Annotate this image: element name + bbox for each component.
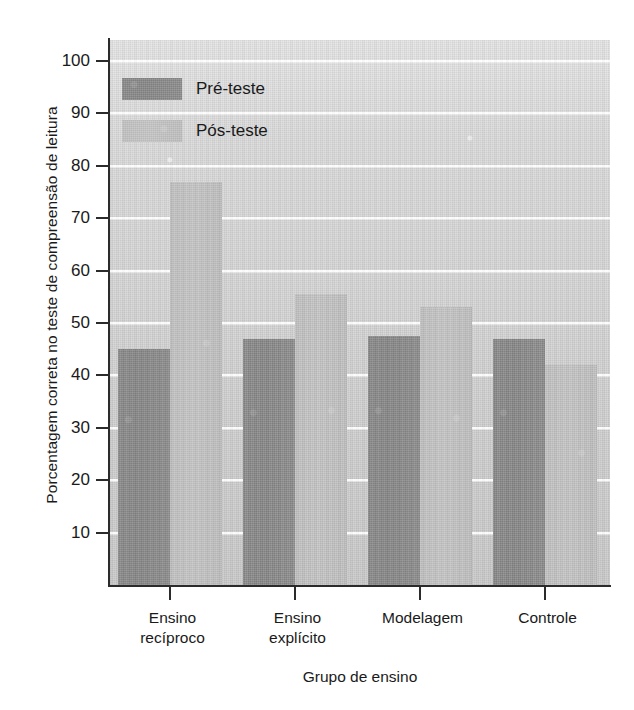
y-axis-tick	[96, 165, 108, 167]
x-axis-title: Grupo de ensino	[110, 668, 610, 686]
y-axis-title: Porcentagem correta no teste de compreen…	[43, 5, 61, 605]
bar-pos-teste	[170, 182, 222, 586]
x-axis-category-label: Modelagem	[353, 608, 493, 628]
y-axis-tick-label-wrap: 20	[40, 471, 90, 489]
bar-pre-teste	[493, 339, 545, 585]
x-axis-category-label-line: Ensino	[228, 608, 368, 628]
legend: Pré-teste Pós-teste	[122, 68, 382, 152]
y-axis-tick-label-wrap: 60	[40, 262, 90, 280]
y-axis-tick-label-wrap: 40	[40, 366, 90, 384]
bar-pos-teste	[295, 294, 347, 585]
x-axis-tick	[294, 587, 296, 600]
gridline	[110, 165, 610, 167]
plot-area: Pré-teste Pós-teste	[110, 40, 610, 585]
x-axis-category-label-line: Modelagem	[353, 608, 493, 628]
y-axis-line	[108, 38, 110, 587]
y-axis-tick-label-wrap: 100	[40, 52, 90, 70]
y-axis-tick-label: 60	[44, 262, 90, 279]
y-axis-tick	[96, 270, 108, 272]
bar-pre-teste	[243, 339, 295, 585]
y-axis-tick	[96, 532, 108, 534]
y-axis-tick-label: 100	[44, 52, 90, 69]
x-axis-category-label-line: Controle	[478, 608, 618, 628]
gridline	[110, 60, 610, 62]
y-axis-tick-label-wrap: 30	[40, 419, 90, 437]
y-axis-tick-label: 10	[44, 524, 90, 541]
legend-swatch-pos-teste	[122, 120, 182, 142]
bar-pre-teste	[368, 336, 420, 585]
y-axis-tick-label: 30	[44, 419, 90, 436]
y-axis-tick-label: 80	[44, 157, 90, 174]
legend-item-pos-teste: Pós-teste	[122, 110, 382, 152]
y-axis-tick	[96, 322, 108, 324]
x-axis-category-label-line: explícito	[228, 628, 368, 648]
x-axis-tick	[419, 587, 421, 600]
y-axis-tick-label: 40	[44, 366, 90, 383]
legend-swatch-pre-teste	[122, 78, 182, 100]
x-axis-category-label: Ensinorecíproco	[103, 608, 243, 648]
y-axis-tick	[96, 479, 108, 481]
y-axis-tick	[96, 112, 108, 114]
x-axis-category-label: Controle	[478, 608, 618, 628]
bar-pre-teste	[118, 349, 170, 585]
x-axis-tick	[169, 587, 171, 600]
y-axis-tick-label-wrap: 10	[40, 524, 90, 542]
y-axis-tick-label-wrap: 90	[40, 104, 90, 122]
y-axis-tick-label-wrap: 80	[40, 157, 90, 175]
y-axis-tick	[96, 427, 108, 429]
x-axis-category-label-line: Ensino	[103, 608, 243, 628]
y-axis-tick-label: 70	[44, 209, 90, 226]
y-axis-tick	[96, 60, 108, 62]
legend-label-pre-teste: Pré-teste	[196, 79, 265, 99]
x-axis-category-label: Ensinoexplícito	[228, 608, 368, 648]
y-axis-tick-label: 90	[44, 104, 90, 121]
legend-item-pre-teste: Pré-teste	[122, 68, 382, 110]
x-axis-tick	[544, 587, 546, 600]
bar-pos-teste	[545, 365, 597, 585]
x-axis-line	[108, 585, 611, 587]
y-axis-tick	[96, 374, 108, 376]
y-axis-tick-label: 20	[44, 471, 90, 488]
y-axis-tick-label-wrap: 50	[40, 314, 90, 332]
y-axis-tick-label-wrap: 70	[40, 209, 90, 227]
legend-label-pos-teste: Pós-teste	[196, 121, 268, 141]
bar-pos-teste	[420, 307, 472, 585]
y-axis-tick	[96, 217, 108, 219]
x-axis-category-label-line: recíproco	[103, 628, 243, 648]
bar-chart-figure: Porcentagem correta no teste de compreen…	[0, 0, 634, 710]
y-axis-tick-label: 50	[44, 314, 90, 331]
